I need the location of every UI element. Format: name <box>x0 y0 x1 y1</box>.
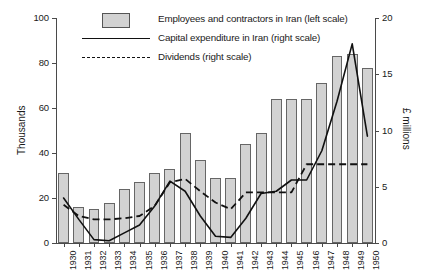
bar <box>149 173 160 243</box>
bar <box>73 207 84 243</box>
chart-figure: 020406080100 05101520 Thousands £ millio… <box>0 0 431 277</box>
bar <box>347 54 358 243</box>
right-tick <box>375 187 379 188</box>
left-tick <box>52 198 56 199</box>
x-tick <box>170 243 171 247</box>
x-tick-label: 1949 <box>356 251 366 270</box>
left-axis-title: Thousands <box>16 106 27 155</box>
x-tick <box>337 243 338 247</box>
x-tick <box>216 243 217 247</box>
x-tick <box>155 243 156 247</box>
left-tick <box>52 18 56 19</box>
x-tick <box>307 243 308 247</box>
solid-line-icon <box>82 38 150 39</box>
left-tick-label: 20 <box>16 192 49 203</box>
x-tick <box>109 243 110 247</box>
x-tick-label: 1942 <box>250 251 260 270</box>
left-axis-line <box>56 18 57 243</box>
x-tick-label: 1939 <box>204 251 214 270</box>
bar <box>316 83 327 243</box>
right-tick-label: 15 <box>382 68 392 79</box>
legend-label-dividends: Dividends (right scale) <box>158 51 251 62</box>
right-tick <box>375 18 379 19</box>
bar <box>256 133 267 243</box>
x-tick-label: 1937 <box>174 251 184 270</box>
x-tick-label: 1930 <box>68 251 78 270</box>
bar <box>301 99 312 243</box>
x-tick-label: 1938 <box>189 251 199 270</box>
left-tick <box>52 153 56 154</box>
x-tick <box>94 243 95 247</box>
bar <box>225 178 236 243</box>
bar <box>164 169 175 243</box>
legend-label-capital-expenditure: Capital expenditure in Iran (right scale… <box>158 32 320 43</box>
right-tick-label: 0 <box>382 237 387 248</box>
right-tick <box>375 74 379 75</box>
right-tick-label: 20 <box>382 12 392 23</box>
bar <box>119 189 130 243</box>
x-tick <box>291 243 292 247</box>
left-tick <box>52 243 56 244</box>
x-tick-label: 1944 <box>280 251 290 270</box>
x-tick-label: 1945 <box>295 251 305 270</box>
x-tick-label: 1948 <box>341 251 351 270</box>
left-tick-label: 80 <box>16 57 49 68</box>
x-tick <box>367 243 368 247</box>
bar <box>104 203 115 244</box>
bar <box>286 99 297 243</box>
x-tick <box>261 243 262 247</box>
x-tick-label: 1935 <box>144 251 154 270</box>
x-tick-label: 1936 <box>159 251 169 270</box>
x-tick <box>64 243 65 247</box>
x-tick <box>352 243 353 247</box>
right-tick <box>375 243 379 244</box>
x-tick <box>231 243 232 247</box>
x-tick <box>246 243 247 247</box>
bar <box>58 173 69 243</box>
bar <box>134 182 145 243</box>
bar <box>89 209 100 243</box>
x-tick-label: 1931 <box>83 251 93 270</box>
x-tick-label: 1941 <box>235 251 245 270</box>
x-tick-label: 1943 <box>265 251 275 270</box>
x-tick-label: 1940 <box>220 251 230 270</box>
x-tick <box>322 243 323 247</box>
x-tick <box>200 243 201 247</box>
x-tick-label: 1934 <box>128 251 138 270</box>
bar <box>332 56 343 243</box>
x-tick <box>124 243 125 247</box>
right-tick-label: 10 <box>382 125 392 136</box>
left-tick <box>52 63 56 64</box>
bar <box>271 99 282 243</box>
right-axis-title: £ millions <box>401 108 412 150</box>
bar-swatch-icon <box>102 13 130 28</box>
bar <box>180 133 191 243</box>
x-tick-label: 1933 <box>113 251 123 270</box>
bar <box>362 68 373 244</box>
x-tick-label: 1946 <box>311 251 321 270</box>
legend-label-employees: Employees and contractors in Iran (left … <box>158 13 348 24</box>
left-tick-label: 0 <box>16 237 49 248</box>
bar <box>240 144 251 243</box>
x-tick <box>140 243 141 247</box>
bar <box>210 178 221 243</box>
dashed-line-icon <box>82 57 150 58</box>
right-tick <box>375 131 379 132</box>
x-tick <box>79 243 80 247</box>
x-tick <box>185 243 186 247</box>
x-tick-label: 1932 <box>98 251 108 270</box>
x-tick <box>276 243 277 247</box>
right-tick-label: 5 <box>382 181 387 192</box>
left-tick <box>52 108 56 109</box>
bar <box>195 160 206 243</box>
x-tick-label: 1947 <box>326 251 336 270</box>
left-tick-label: 100 <box>16 12 49 23</box>
x-tick-label: 1950 <box>371 251 381 270</box>
